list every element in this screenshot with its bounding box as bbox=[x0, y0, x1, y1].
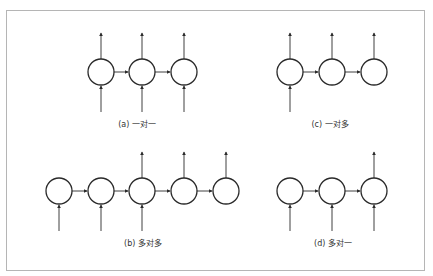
panel-one-to-many bbox=[277, 33, 387, 112]
panel-many-to-one bbox=[277, 152, 387, 231]
caption-one-to-one: (a) 一对一 bbox=[118, 119, 156, 129]
rnn-cell-node bbox=[46, 178, 72, 204]
panel-many-to-many bbox=[46, 152, 239, 231]
rnn-cell-node bbox=[319, 178, 345, 204]
rnn-cell-node bbox=[361, 178, 387, 204]
rnn-cell-node bbox=[277, 178, 303, 204]
rnn-cell-node bbox=[171, 59, 197, 85]
caption-one-to-many: (c) 一对多 bbox=[311, 119, 348, 129]
panel-one-to-one bbox=[88, 33, 197, 112]
rnn-cell-node bbox=[129, 59, 155, 85]
caption-many-to-many: (b) 多对多 bbox=[124, 238, 162, 248]
caption-many-to-one: (d) 多对一 bbox=[314, 238, 352, 248]
rnn-cell-node bbox=[171, 178, 197, 204]
rnn-cell-node bbox=[213, 178, 239, 204]
rnn-cell-node bbox=[129, 178, 155, 204]
rnn-cell-node bbox=[361, 59, 387, 85]
rnn-cell-node bbox=[319, 59, 345, 85]
rnn-cell-node bbox=[88, 59, 114, 85]
rnn-cell-node bbox=[277, 59, 303, 85]
rnn-architectures-diagram: (a) 一对一 (c) 一对多 (b) 多对多 (d) 多对一 bbox=[0, 0, 433, 276]
rnn-cell-node bbox=[88, 178, 114, 204]
